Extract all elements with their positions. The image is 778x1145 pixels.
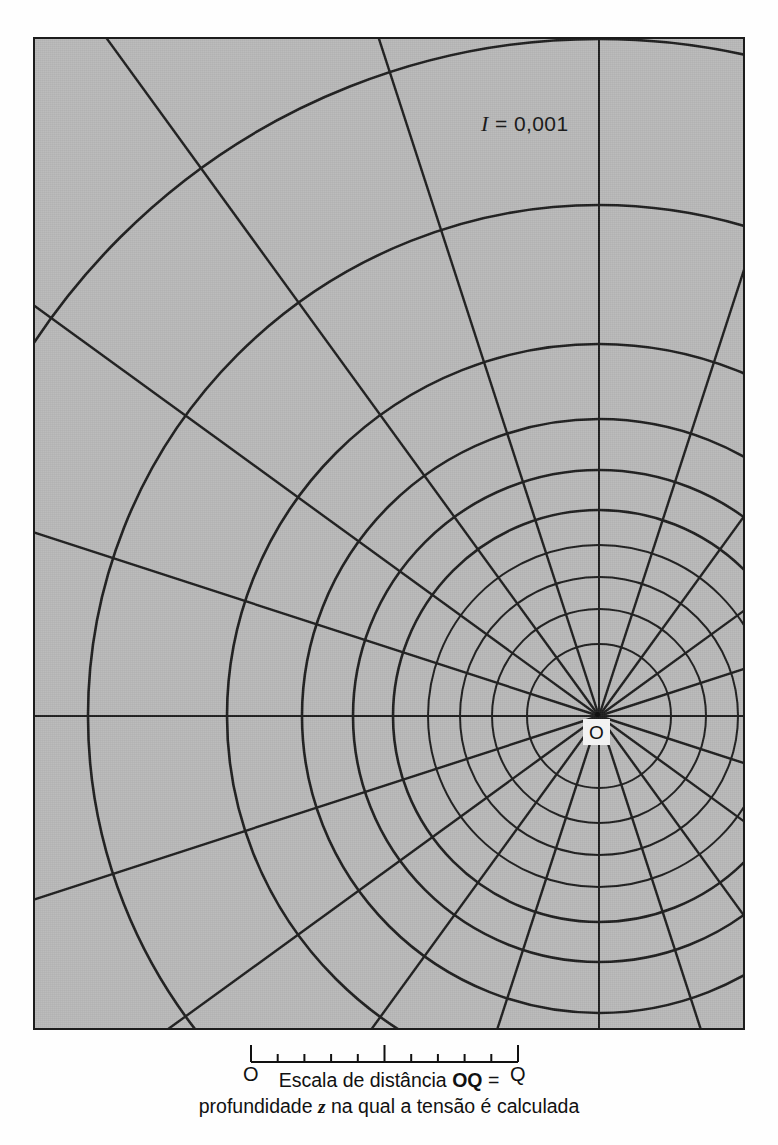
caption-line1-prefix: Escala de distância [279,1069,452,1091]
caption-line1-suffix: = [482,1069,499,1091]
caption-line2-prefix: profundidade [199,1095,318,1117]
caption-line2-suffix: na qual a tensão é calculada [326,1095,580,1117]
radial-line-108deg [599,716,745,994]
radial-line-324deg [69,39,599,716]
caption-line2-italic: z [318,1096,326,1117]
influence-equals: = [495,112,508,135]
radial-line-288deg [35,438,599,716]
newmark-chart-graphic [35,39,745,1030]
figure-caption: Escala de distância OQ = profundidade z … [0,1068,778,1119]
radial-line-252deg [35,716,599,994]
concentric-circles-group [35,39,745,1030]
influence-value: 0,001 [514,112,569,135]
radial-line-36deg [599,39,745,716]
radial-line-162deg [599,716,745,1030]
radial-line-198deg [321,716,599,1030]
radial-line-306deg [35,186,599,716]
center-point-marker [595,712,600,717]
influence-value-label: I = 0,001 [481,111,568,137]
influence-chart-plate [33,37,745,1030]
ring-9 [88,205,745,1030]
scale-bar-graphic [236,1040,536,1070]
influence-symbol: I [481,111,489,136]
figure-page: I = 0,001 O O Q Escala de distância OQ =… [0,0,778,1145]
center-point-label: O [583,719,610,745]
radial-line-72deg [599,438,745,716]
radial-line-144deg [599,716,745,1030]
caption-line1-bold: OQ [452,1069,482,1091]
radial-line-216deg [69,716,599,1030]
caption-line-1: Escala de distância OQ = [0,1068,778,1094]
radial-line-126deg [599,716,745,1030]
caption-line-2: profundidade z na qual a tensão é calcul… [0,1094,778,1120]
